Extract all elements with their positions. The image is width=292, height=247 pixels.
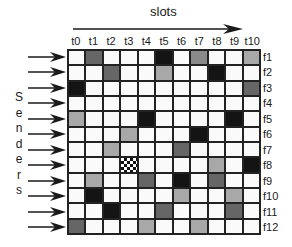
slot-cell-f11-t1	[86, 204, 101, 217]
slot-cell-f10-t2	[104, 189, 119, 202]
senders-letter: d	[16, 137, 23, 153]
slot-cell-f3-t1	[86, 82, 101, 95]
slot-cell-f9-t5	[156, 174, 171, 187]
slot-cell-f6-t0	[69, 128, 84, 141]
slot-cell-f4-t8	[209, 97, 224, 110]
slot-cell-f2-t6	[174, 66, 189, 79]
slot-cell-f1-t10	[244, 51, 259, 64]
slot-cell-f9-t7	[191, 174, 206, 187]
slot-cell-f7-t4	[139, 143, 154, 156]
row-label: f5	[263, 111, 291, 127]
slot-cell-f7-t6	[174, 143, 189, 156]
slot-cell-f7-t3	[121, 143, 136, 156]
slot-cell-f11-t4	[139, 204, 154, 217]
sender-arrow-icon	[28, 80, 68, 96]
slot-cell-f8-t3	[121, 158, 136, 171]
slot-cell-f1-t8	[209, 51, 224, 64]
slot-cell-f3-t7	[191, 82, 206, 95]
slot-cell-f11-t6	[174, 204, 189, 217]
slot-cell-f7-t2	[104, 143, 119, 156]
slot-cell-f8-t2	[104, 158, 119, 171]
slot-cell-f11-t5	[156, 204, 171, 217]
slot-cell-f12-t1	[86, 220, 101, 233]
row-label: f3	[263, 80, 291, 96]
sender-arrows	[28, 49, 68, 235]
sender-arrow-icon	[28, 96, 68, 112]
slot-cell-f1-t4	[139, 51, 154, 64]
slot-cell-f4-t0	[69, 97, 84, 110]
slot-cell-f2-t3	[121, 66, 136, 79]
slot-cell-f2-t10	[244, 66, 259, 79]
slot-cell-f2-t8	[209, 66, 224, 79]
row-label: f7	[263, 142, 291, 158]
slot-cell-f11-t0	[69, 204, 84, 217]
sender-arrow-icon	[28, 189, 68, 205]
slot-cell-f12-t3	[121, 220, 136, 233]
slot-cell-f9-t0	[69, 174, 84, 187]
slot-cell-f10-t7	[191, 189, 206, 202]
senders-letter: e	[16, 106, 23, 122]
slot-cell-f9-t6	[174, 174, 189, 187]
slot-cell-f4-t3	[121, 97, 136, 110]
sender-arrow-icon	[28, 142, 68, 158]
slot-cell-f7-t7	[191, 143, 206, 156]
slot-grid	[67, 49, 261, 235]
slot-cell-f5-t2	[104, 112, 119, 125]
slot-cell-f1-t3	[121, 51, 136, 64]
slot-cell-f3-t2	[104, 82, 119, 95]
row-label: f11	[263, 204, 291, 220]
slot-cell-f11-t8	[209, 204, 224, 217]
slot-cell-f10-t3	[121, 189, 136, 202]
slot-cell-f1-t6	[174, 51, 189, 64]
row-label: f12	[263, 220, 291, 236]
slot-cell-f4-t5	[156, 97, 171, 110]
slot-cell-f9-t3	[121, 174, 136, 187]
slot-cell-f12-t7	[191, 220, 206, 233]
slot-cell-f8-t10	[244, 158, 259, 171]
slot-cell-f2-t0	[69, 66, 84, 79]
sender-arrow-icon	[28, 158, 68, 174]
sender-arrow-icon	[28, 111, 68, 127]
column-label: t8	[208, 35, 226, 49]
slot-cell-f12-t0	[69, 220, 84, 233]
slot-cell-f3-t0	[69, 82, 84, 95]
senders-letter: s	[16, 183, 22, 199]
column-label: t10	[243, 35, 261, 49]
slot-cell-f12-t9	[226, 220, 241, 233]
slot-cell-f11-t2	[104, 204, 119, 217]
slot-cell-f3-t5	[156, 82, 171, 95]
slot-cell-f7-t1	[86, 143, 101, 156]
slot-cell-f5-t8	[209, 112, 224, 125]
column-label: t7	[190, 35, 208, 49]
slot-cell-f11-t10	[244, 204, 259, 217]
slot-cell-f3-t10	[244, 82, 259, 95]
slot-cell-f6-t9	[226, 128, 241, 141]
sender-arrow-icon	[28, 220, 68, 236]
senders-letter: S	[15, 90, 23, 106]
slot-cell-f4-t6	[174, 97, 189, 110]
column-label: t4	[138, 35, 156, 49]
slot-cell-f5-t4	[139, 112, 154, 125]
slot-cell-f2-t1	[86, 66, 101, 79]
slot-cell-f5-t5	[156, 112, 171, 125]
slot-cell-f12-t6	[174, 220, 189, 233]
slot-cell-f1-t9	[226, 51, 241, 64]
slot-cell-f6-t6	[174, 128, 189, 141]
slot-cell-f10-t5	[156, 189, 171, 202]
slot-cell-f8-t9	[226, 158, 241, 171]
row-label: f2	[263, 65, 291, 81]
column-labels: t0t1t2t3t4t5t6t7t8t9t10	[67, 35, 261, 49]
slot-cell-f4-t1	[86, 97, 101, 110]
slot-cell-f5-t1	[86, 112, 101, 125]
slot-cell-f10-t1	[86, 189, 101, 202]
slot-cell-f4-t4	[139, 97, 154, 110]
slot-cell-f8-t7	[191, 158, 206, 171]
slot-cell-f7-t10	[244, 143, 259, 156]
slot-cell-f6-t8	[209, 128, 224, 141]
slot-cell-f4-t7	[191, 97, 206, 110]
row-label: f1	[263, 49, 291, 65]
slot-cell-f9-t1	[86, 174, 101, 187]
slot-cell-f6-t7	[191, 128, 206, 141]
senders-letter: r	[17, 168, 21, 184]
slot-cell-f9-t8	[209, 174, 224, 187]
